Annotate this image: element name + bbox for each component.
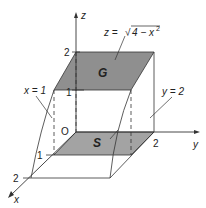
surface-equation-label: z = (103, 27, 118, 38)
region-s-label: S (93, 136, 101, 150)
plane-y-label: y = 2 (161, 86, 184, 97)
surface-equation-radicand: 4 − x (132, 27, 155, 38)
z-tick-1: 1 (66, 87, 72, 98)
y-axis-arrow-icon (194, 130, 200, 134)
surface-equation-exponent: 2 (156, 25, 160, 32)
z-axis-arrow-icon (74, 12, 78, 18)
sqrt-sign-icon: √ (125, 27, 131, 38)
y-tick-2: 2 (153, 138, 159, 149)
base-region-s (54, 132, 154, 155)
origin-label: O (61, 126, 69, 137)
plane-x-label: x = 1 (23, 85, 46, 96)
z-axis-label: z (80, 10, 86, 21)
diagram-canvas: z y x O 2 1 1 2 2 z = √ 4 − x 2 x = 1 y … (0, 0, 206, 208)
region-g-label: G (98, 66, 107, 80)
x-axis (10, 132, 76, 196)
leader-line (150, 97, 172, 118)
leader-line (36, 96, 52, 118)
y-axis-label: y (192, 139, 199, 150)
x-tick-2: 2 (13, 173, 19, 184)
x-axis-label: x (13, 194, 20, 205)
z-tick-2: 2 (64, 47, 70, 58)
x-tick-1: 1 (37, 150, 43, 161)
